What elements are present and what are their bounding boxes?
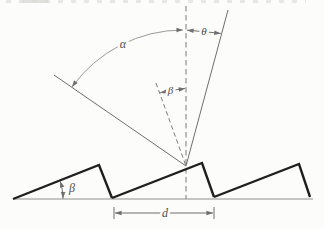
blazed-grating-diagram: α θ β β d xyxy=(0,0,324,229)
theta-label: θ xyxy=(201,25,207,37)
diffracted-ray xyxy=(186,10,228,166)
blaze-angle-arc xyxy=(60,181,63,199)
alpha-label: α xyxy=(120,37,127,51)
incident-ray xyxy=(54,75,186,166)
alpha-angle-arc xyxy=(72,30,183,87)
blaze-angle-label: β xyxy=(68,181,75,195)
beta-normals-label: β xyxy=(167,84,174,96)
groove-tooth-2 xyxy=(112,163,214,198)
spacing-label: d xyxy=(162,206,169,220)
cropped-text-artifact xyxy=(6,0,306,3)
groove-tooth-3 xyxy=(214,164,310,197)
diagram-canvas: α θ β β d xyxy=(0,0,324,229)
cropped-text-blot xyxy=(22,0,48,3)
